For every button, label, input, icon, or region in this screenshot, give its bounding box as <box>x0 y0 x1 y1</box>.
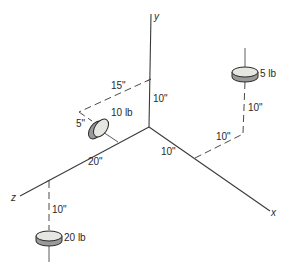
y-axis-label: y <box>153 11 160 22</box>
label-5in: 5" <box>76 118 86 129</box>
label-x-10in: 10" <box>161 146 176 157</box>
label-y-height: 10" <box>153 93 168 104</box>
weight-10lb-icon <box>85 116 111 141</box>
label-x-offset-10in: 10" <box>216 131 231 142</box>
z-axis-label: z <box>10 192 16 203</box>
label-20in: 20" <box>88 156 103 167</box>
dim-line-5lb-vertical <box>243 82 245 133</box>
x-axis <box>149 127 270 211</box>
label-10lb: 10 lb <box>111 107 133 118</box>
label-20lb-vertical: 10" <box>52 204 67 215</box>
label-5lb: 5 lb <box>260 68 277 79</box>
weight-5lb-icon <box>232 67 258 82</box>
label-20lb: 20 lb <box>64 232 86 243</box>
y-axis <box>149 14 151 127</box>
weight-20lb-icon <box>36 231 62 246</box>
axes-diagram: y z x 10" 15" 5" 20" 10" 10" 10" 10" 10 … <box>0 0 290 274</box>
label-15in: 15" <box>111 80 126 91</box>
x-axis-label: x <box>270 207 277 218</box>
z-axis <box>20 127 149 196</box>
diagram-canvas: y z x 10" 15" 5" 20" 10" 10" 10" 10" 10 … <box>0 0 290 274</box>
label-5lb-vertical: 10" <box>248 102 263 113</box>
